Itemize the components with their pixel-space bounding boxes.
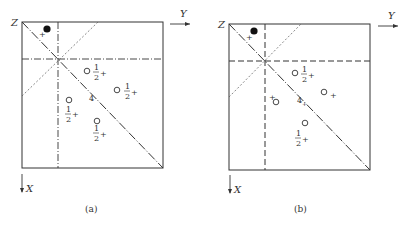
height-denominator: 2 xyxy=(302,75,307,84)
fourfold-axis-label: 4 xyxy=(89,94,94,103)
atom-sign-label: + xyxy=(39,30,46,39)
atom-sign-label: + xyxy=(330,91,337,100)
atom-sign-label: + xyxy=(269,93,276,102)
atom-sign-label: + xyxy=(308,71,315,80)
open-atom xyxy=(114,87,120,93)
atom-sign-label: + xyxy=(131,88,138,97)
open-atom xyxy=(321,89,327,95)
panel-caption: (b) xyxy=(294,204,307,214)
z-axis-label: Z xyxy=(217,19,226,30)
figure-canvas: + 1 2 + 1 2 + 1 2 + 1 2 + 4 Z Y X (a) xyxy=(0,0,404,226)
panel-caption: (a) xyxy=(85,204,97,214)
fourfold-axis-sign: + xyxy=(302,100,307,107)
height-denominator: 2 xyxy=(66,115,71,124)
atom-sign-label: + xyxy=(246,33,253,42)
atom-sign-label: + xyxy=(72,110,79,119)
height-denominator: 2 xyxy=(125,92,130,101)
height-numerator: 1 xyxy=(302,65,307,74)
height-denominator: 2 xyxy=(296,139,301,148)
open-atom xyxy=(302,120,308,126)
panel-a: + 1 2 + 1 2 + 1 2 + 1 2 + 4 Z Y X (a) xyxy=(10,8,190,214)
atom-sign-label: + xyxy=(100,69,107,78)
height-numerator: 1 xyxy=(125,82,130,91)
open-atom xyxy=(84,68,90,74)
height-numerator: 1 xyxy=(296,129,301,138)
x-axis-label: X xyxy=(25,183,34,194)
open-atom xyxy=(66,97,72,103)
atom-sign-label: + xyxy=(302,135,309,144)
open-atom xyxy=(292,70,298,76)
atom-sign-label: + xyxy=(100,130,107,139)
y-axis-label: Y xyxy=(180,8,188,19)
height-denominator: 2 xyxy=(94,134,99,143)
z-axis-label: Z xyxy=(10,17,19,28)
height-numerator: 1 xyxy=(94,63,99,72)
y-axis-label: Y xyxy=(388,10,396,21)
height-numerator: 1 xyxy=(66,105,71,114)
open-atom xyxy=(94,118,100,124)
height-numerator: 1 xyxy=(94,124,99,133)
height-denominator: 2 xyxy=(94,73,99,82)
x-axis-label: X xyxy=(233,184,242,195)
panel-b: + 1 2 + + + 1 2 + 4 + Z Y X (b) xyxy=(217,10,398,214)
